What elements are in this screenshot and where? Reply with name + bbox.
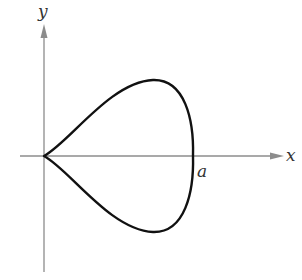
y-axis-arrow-icon	[41, 24, 48, 38]
curve-diagram: y x a	[0, 0, 302, 280]
x-axis-label: x	[286, 145, 296, 165]
x-axis-arrow-icon	[270, 153, 284, 160]
x-axis	[20, 153, 284, 160]
y-axis-label: y	[37, 1, 48, 21]
intercept-label-a: a	[197, 161, 207, 181]
y-axis	[41, 24, 48, 272]
